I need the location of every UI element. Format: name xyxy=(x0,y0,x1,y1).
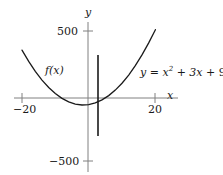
x-tick-label-neg20: −20 xyxy=(13,104,36,115)
y-axis-label: y xyxy=(85,7,91,18)
y-tick-label-500: 500 xyxy=(57,26,78,37)
equation-plus-1: + xyxy=(177,66,186,79)
x-tick-label-20: 20 xyxy=(148,104,162,115)
graph-figure: 500 −500 −20 20 y x f(x) y = x2 + 3x + 9 xyxy=(0,0,223,175)
x-axis-label: x xyxy=(167,90,173,101)
curve-annotation-fx: f(x) xyxy=(45,65,64,76)
equation-annotation: y = x2 + 3x + 9 xyxy=(140,66,223,78)
equation-term-9: 9 xyxy=(219,66,223,79)
y-tick-label-neg500: −500 xyxy=(49,156,79,167)
parabola-curve xyxy=(22,30,155,105)
equation-term-3x: 3x xyxy=(189,66,202,79)
equation-equals-sign: = xyxy=(150,66,159,79)
plot-canvas xyxy=(0,0,223,175)
equation-plus-2: + xyxy=(206,66,215,79)
